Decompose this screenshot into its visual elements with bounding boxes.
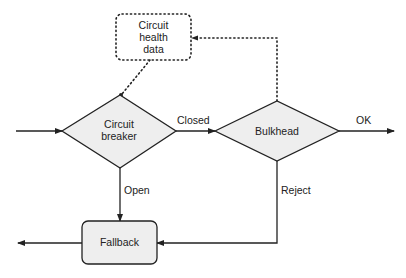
fallback-node: Fallback: [82, 221, 157, 264]
health-data-line-2: health: [139, 31, 168, 43]
bulkhead-feedback-dotted: [194, 38, 277, 101]
ok-label: OK: [356, 114, 371, 126]
reject-edge: [157, 161, 277, 243]
feedback-arrowhead: [191, 36, 198, 41]
health-data-line-1: Circuit: [139, 19, 169, 31]
open-label: Open: [124, 184, 150, 196]
circuit-breaker-node: Circuit breaker: [62, 95, 176, 168]
circuit-breaker-line-1: Circuit: [104, 118, 134, 130]
flow-diagram: Circuit health data Circuit breaker Clos…: [0, 0, 406, 278]
health-data-line-3: data: [143, 43, 164, 55]
health-data-node: Circuit health data: [116, 14, 191, 60]
bulkhead-node: Bulkhead: [215, 101, 339, 161]
closed-label: Closed: [177, 114, 210, 126]
bulkhead-label: Bulkhead: [255, 125, 299, 137]
health-to-breaker-dotted: [122, 60, 150, 94]
fallback-label: Fallback: [100, 236, 140, 248]
reject-label: Reject: [281, 184, 311, 196]
circuit-breaker-line-2: breaker: [101, 130, 137, 142]
